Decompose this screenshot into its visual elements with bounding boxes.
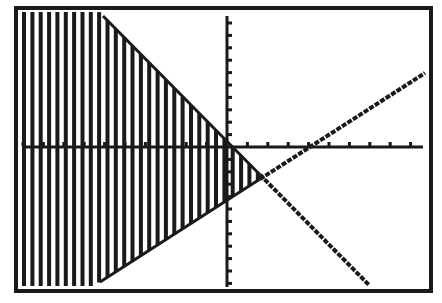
shading-stripe xyxy=(81,12,85,286)
x-tick xyxy=(144,142,147,146)
y-tick xyxy=(228,71,232,74)
x-tick xyxy=(185,142,188,146)
x-tick xyxy=(22,142,25,146)
shading-stripe xyxy=(114,29,118,272)
x-tick xyxy=(266,142,269,146)
x-tick xyxy=(328,142,331,146)
shading-stripe xyxy=(89,12,93,286)
calculator-graph-screen xyxy=(0,0,442,303)
shading-stripe xyxy=(22,12,26,286)
y-tick xyxy=(228,170,232,173)
shading-stripe xyxy=(106,21,110,278)
shading-stripe xyxy=(206,122,210,213)
x-tick xyxy=(42,142,45,146)
x-tick xyxy=(368,142,371,146)
decreasing-line xyxy=(260,175,369,285)
y-tick xyxy=(228,257,232,260)
shading-stripe xyxy=(55,12,59,286)
shading-stripe xyxy=(122,37,126,266)
x-tick xyxy=(287,142,290,146)
y-tick xyxy=(228,270,232,273)
shading-stripe xyxy=(164,80,168,240)
shading-stripe xyxy=(239,156,243,192)
y-tick xyxy=(228,133,232,136)
shading-stripe xyxy=(189,105,193,224)
graph-canvas xyxy=(0,0,442,303)
y-tick xyxy=(228,96,232,99)
shading-stripe xyxy=(64,12,68,286)
x-tick xyxy=(124,142,127,146)
x-tick xyxy=(164,142,167,146)
y-tick xyxy=(228,84,232,87)
shading-stripe xyxy=(139,54,143,255)
y-tick xyxy=(228,108,232,111)
x-tick xyxy=(103,142,106,146)
y-tick xyxy=(228,183,232,186)
y-tick xyxy=(228,208,232,211)
x-axis xyxy=(22,146,423,149)
x-tick xyxy=(389,142,392,146)
x-tick xyxy=(348,142,351,146)
y-tick xyxy=(228,245,232,248)
shading-stripe xyxy=(147,63,151,251)
x-tick xyxy=(246,142,249,146)
y-tick xyxy=(228,121,232,124)
shading-stripe xyxy=(181,97,185,229)
y-tick xyxy=(228,158,232,161)
shading-stripe xyxy=(39,12,43,286)
y-tick xyxy=(228,34,232,37)
y-tick xyxy=(228,232,232,235)
y-tick xyxy=(228,220,232,223)
shading-stripe xyxy=(47,12,51,286)
shading-stripe xyxy=(172,88,176,234)
y-tick xyxy=(228,46,232,49)
shading-stripe xyxy=(30,12,34,286)
y-tick xyxy=(228,22,232,25)
y-tick xyxy=(228,59,232,62)
x-tick xyxy=(62,142,65,146)
shading-stripe xyxy=(214,130,218,207)
shading-stripe xyxy=(156,71,160,245)
x-tick xyxy=(205,142,208,146)
y-tick xyxy=(228,282,232,285)
shading-stripe xyxy=(72,12,76,286)
increasing-line xyxy=(260,73,425,179)
x-tick xyxy=(409,142,412,146)
x-tick xyxy=(83,142,86,146)
shading-stripe xyxy=(197,113,201,218)
shading-stripe xyxy=(131,46,135,261)
